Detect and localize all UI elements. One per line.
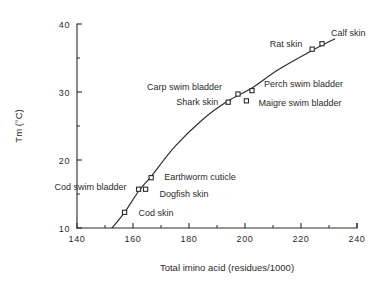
data-point-marker xyxy=(144,187,148,191)
data-point-label: Earthworm cuticle xyxy=(164,172,236,182)
x-tick-label: 160 xyxy=(125,234,142,244)
fit-curve xyxy=(112,39,335,228)
data-point-marker xyxy=(226,100,230,104)
x-axis-title: Total imino acid (residues/1000) xyxy=(160,262,294,273)
y-tick-label: 40 xyxy=(59,20,70,30)
data-point-label: Maigre swim bladder xyxy=(258,98,341,108)
data-point-label: Calf skin xyxy=(331,28,366,38)
data-point-marker xyxy=(250,89,254,93)
data-point-marker xyxy=(244,99,248,103)
y-axis-title: Tm (°C) xyxy=(13,109,24,142)
data-point-marker xyxy=(320,42,324,46)
data-point-label: Cod swim bladder xyxy=(55,182,127,192)
y-tick-label: 20 xyxy=(59,156,70,166)
data-point-marker xyxy=(236,92,240,96)
data-point-label: Carp swim bladder xyxy=(147,82,222,92)
data-point-marker xyxy=(137,187,141,191)
y-tick-label: 10 xyxy=(59,224,70,234)
data-point-label: Rat skin xyxy=(270,39,303,49)
x-tick-label: 140 xyxy=(69,234,86,244)
data-markers xyxy=(123,42,325,215)
data-point-marker xyxy=(149,176,153,180)
x-tick-label: 180 xyxy=(181,234,198,244)
data-point-label: Shark skin xyxy=(176,97,218,107)
trend-curve xyxy=(112,39,335,228)
x-tick-label: 220 xyxy=(293,234,310,244)
data-point-marker xyxy=(310,47,314,51)
data-point-marker xyxy=(123,210,127,214)
point-labels: Cod skinCod swim bladderDogfish skinEart… xyxy=(55,28,366,219)
chart-figure: 14016018020022024010203040 Cod skinCod s… xyxy=(0,0,382,283)
y-tick-label: 30 xyxy=(59,88,70,98)
axes: 14016018020022024010203040 xyxy=(59,20,366,245)
data-point-label: Cod skin xyxy=(139,208,174,218)
data-point-label: Perch swim bladder xyxy=(264,79,343,89)
data-point-label: Dogfish skin xyxy=(160,189,209,199)
x-tick-label: 200 xyxy=(237,234,254,244)
scatter-plot: 14016018020022024010203040 Cod skinCod s… xyxy=(0,0,382,283)
x-tick-label: 240 xyxy=(349,234,366,244)
